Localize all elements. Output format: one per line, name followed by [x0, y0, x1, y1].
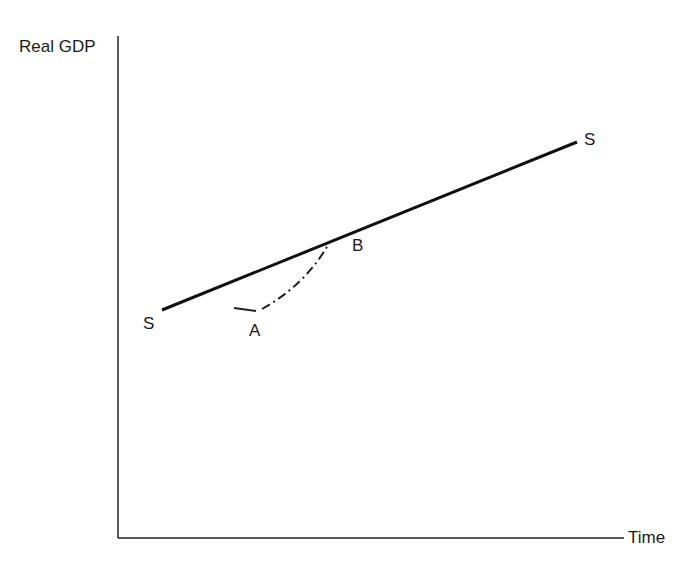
- diagram-canvas: [0, 0, 689, 575]
- point-a-label: A: [249, 321, 260, 341]
- trend-label-start: S: [143, 314, 154, 334]
- trend-line-ss: [162, 142, 577, 310]
- y-axis-label: Real GDP: [19, 37, 96, 57]
- pre-a-segment: [234, 308, 256, 311]
- x-axis-label: Time: [628, 528, 665, 548]
- point-b-label: B: [352, 236, 363, 256]
- trend-label-end: S: [584, 130, 595, 150]
